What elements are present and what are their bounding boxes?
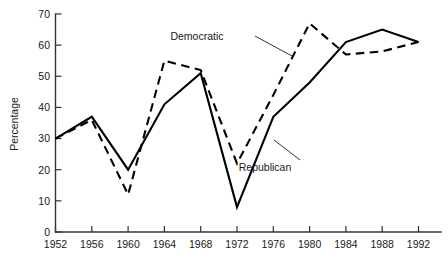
series-label-democratic: Democratic <box>170 30 223 42</box>
y-tick-label-10: 10 <box>38 195 50 207</box>
x-tick-label-1984: 1984 <box>334 238 358 250</box>
x-tick-label-1992: 1992 <box>407 238 431 250</box>
chart-container: 010203040506070 195219561960196419681972… <box>0 0 448 258</box>
y-tick-label-40: 40 <box>38 101 50 113</box>
y-tick-label-30: 30 <box>38 132 50 144</box>
y-axis-group: 010203040506070 <box>38 8 61 238</box>
y-tick-marks <box>56 14 62 232</box>
leader-line-democratic <box>255 36 292 56</box>
y-tick-labels: 010203040506070 <box>38 8 50 238</box>
x-axis-group: 1952195619601964196819721976198019841988… <box>44 226 441 250</box>
x-tick-label-1956: 1956 <box>80 238 104 250</box>
series-line-republican <box>56 30 419 208</box>
y-tick-label-70: 70 <box>38 8 50 20</box>
data-series-group <box>56 23 419 207</box>
line-chart: 010203040506070 195219561960196419681972… <box>0 0 448 258</box>
x-tick-label-1980: 1980 <box>298 238 322 250</box>
series-label-republican: Republican <box>239 161 292 173</box>
x-tick-label-1964: 1964 <box>153 238 177 250</box>
series-line-democratic <box>56 23 419 194</box>
y-tick-label-60: 60 <box>38 39 50 51</box>
x-tick-label-1972: 1972 <box>225 238 249 250</box>
x-tick-label-1968: 1968 <box>189 238 213 250</box>
y-tick-label-20: 20 <box>38 164 50 176</box>
x-tick-label-1960: 1960 <box>116 238 140 250</box>
x-tick-label-1952: 1952 <box>44 238 68 250</box>
x-tick-label-1976: 1976 <box>262 238 286 250</box>
series-annotations: DemocraticRepublican <box>170 30 300 173</box>
x-tick-label-1988: 1988 <box>371 238 395 250</box>
y-axis-title: Percentage <box>8 97 20 151</box>
leader-line-republican <box>274 140 300 160</box>
y-tick-label-50: 50 <box>38 70 50 82</box>
x-tick-labels: 1952195619601964196819721976198019841988… <box>44 238 431 250</box>
y-tick-label-0: 0 <box>44 226 50 238</box>
x-tick-marks <box>56 226 419 232</box>
